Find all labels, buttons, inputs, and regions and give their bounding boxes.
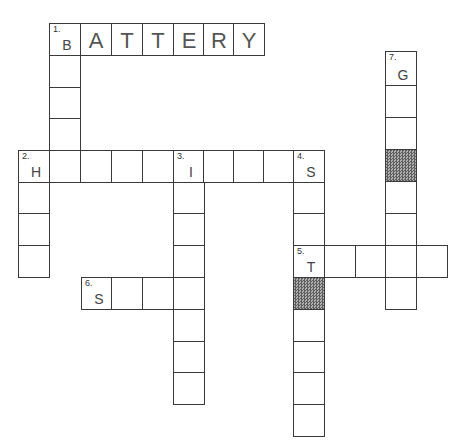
cell-letter: T [112,30,142,52]
crossword-cell[interactable]: 7.G [385,51,417,86]
crossword-cell[interactable] [49,118,81,152]
crossword-cell[interactable] [173,182,205,215]
crossword-cell[interactable] [111,150,143,183]
clue-number: 7. [389,53,397,62]
crossword-cell[interactable]: T [142,23,174,56]
cell-letter: T [298,260,324,274]
crossword-cell[interactable] [293,372,325,405]
cell-letter: E [174,30,204,52]
cell-letter: B [54,38,80,52]
crossword-cell[interactable] [293,404,325,437]
cell-letter: S [86,292,112,306]
crossword-cell[interactable]: 1.B [49,23,81,56]
clue-number: 1. [53,25,61,34]
crossword-cell[interactable]: A [80,23,112,56]
cell-letter: Y [234,30,264,52]
shaded-cell [385,149,417,182]
crossword-cell[interactable] [18,213,50,247]
crossword-cell[interactable]: E [173,23,205,56]
clue-number: 2. [22,152,30,161]
clue-number: 4. [297,152,305,161]
crossword-cell[interactable] [173,372,205,405]
crossword-cell[interactable] [49,55,81,88]
crossword-cell[interactable]: Y [233,23,265,56]
crossword-cell[interactable]: T [111,23,143,56]
crossword-cell[interactable] [385,117,417,150]
cell-letter: A [81,30,111,52]
cell-letter: I [178,165,204,179]
crossword-cell[interactable] [18,182,50,215]
crossword-cell[interactable] [233,150,265,183]
cell-letter: R [204,30,234,52]
crossword-cell[interactable] [293,182,325,215]
cell-letter: T [143,30,173,52]
crossword-cell[interactable]: R [203,23,235,56]
clue-number: 6. [85,279,93,288]
crossword-cell[interactable] [385,245,417,278]
cell-letter: H [23,165,49,179]
crossword-cell[interactable] [385,181,417,214]
crossword-cell[interactable] [416,245,448,278]
crossword-cell[interactable] [173,277,205,310]
crossword-cell[interactable] [173,245,205,278]
crossword-cell[interactable] [18,245,50,278]
crossword-cell[interactable] [173,309,205,342]
shaded-cell [293,277,325,310]
cell-letter: G [390,68,416,82]
crossword-cell[interactable] [203,150,235,183]
crossword-cell[interactable] [173,341,205,374]
crossword-cell[interactable] [293,309,325,342]
crossword-cell[interactable] [385,85,417,118]
crossword-cell[interactable]: 5.T [293,245,325,278]
crossword-cell[interactable] [80,150,112,183]
crossword-grid: 1.BATTERY2.H3.I4.S5.T6.S7.G [0,0,462,442]
crossword-cell[interactable] [142,150,174,183]
crossword-cell[interactable] [293,213,325,247]
cell-letter: S [298,165,324,179]
crossword-cell[interactable] [173,213,205,247]
crossword-cell[interactable] [293,341,325,374]
crossword-cell[interactable] [49,87,81,120]
crossword-cell[interactable] [324,245,356,278]
crossword-cell[interactable] [142,277,174,310]
clue-number: 3. [177,152,185,161]
clue-number: 5. [297,247,305,256]
crossword-cell[interactable] [385,277,417,310]
crossword-cell[interactable]: 6.S [81,277,113,310]
crossword-cell[interactable] [263,150,295,183]
crossword-cell[interactable] [49,150,81,183]
crossword-cell[interactable] [385,213,417,246]
crossword-cell[interactable]: 3.I [173,150,205,183]
crossword-cell[interactable] [111,277,143,310]
crossword-cell[interactable]: 2.H [18,150,50,183]
crossword-cell[interactable]: 4.S [293,150,325,183]
crossword-cell[interactable] [355,245,387,278]
